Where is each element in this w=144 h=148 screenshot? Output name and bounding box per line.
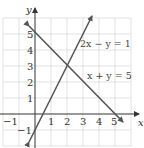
y-axis-label: y [25,4,32,15]
y-tick: 3 [27,61,33,72]
equation-label-x-plus-y: x + y = 5 [87,70,132,81]
y-tick: 5 [27,29,33,40]
x-axis-label: x [138,117,144,128]
y-tick: 4 [27,45,33,56]
coordinate-plane: x y −1 1 2 3 4 5 −1 1 2 3 4 5 2x − y = 1… [0,0,144,148]
x-tick: 5 [111,116,117,127]
x-tick: −1 [3,116,18,127]
y-tick: 2 [27,77,33,88]
equation-label-2x-minus-y: 2x − y = 1 [80,38,131,49]
x-tick: 1 [48,116,54,127]
x-tick: 4 [96,116,102,127]
y-tick: 1 [27,93,33,104]
x-tick: 2 [64,116,70,127]
y-tick: −1 [17,125,32,136]
x-tick: 3 [80,116,86,127]
